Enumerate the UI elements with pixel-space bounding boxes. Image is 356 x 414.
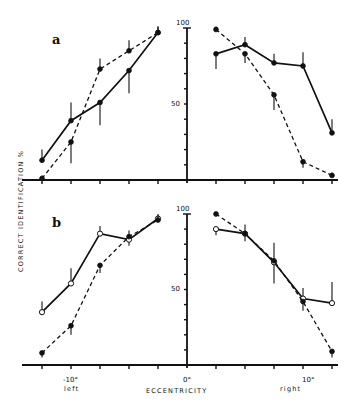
data-point-filled [301, 299, 306, 304]
data-point-filled [127, 68, 132, 73]
data-point-filled [243, 231, 248, 236]
data-point-filled [40, 158, 45, 163]
data-point-filled [214, 27, 219, 32]
y-tick-50-bottom: 50 [171, 285, 180, 293]
x-side-label-left: left [64, 385, 79, 393]
data-point-filled [214, 51, 219, 56]
x-tick-label-0: 0° [183, 376, 191, 384]
panel-label-b: b [52, 215, 61, 230]
panel-b-axes [22, 214, 338, 369]
data-point-filled [330, 173, 335, 178]
panel-a-axes [22, 28, 338, 184]
data-point-open [97, 231, 102, 236]
y-tick-100-bottom: 100 [176, 205, 189, 213]
data-point-filled [272, 92, 277, 97]
data-point-filled [98, 263, 103, 268]
series-line-solid-left [42, 33, 158, 161]
data-point-open [329, 300, 334, 305]
x-axis-label: ECCENTRICITY [146, 387, 207, 395]
data-point-filled [330, 349, 335, 354]
panel-label-a: a [52, 32, 61, 47]
data-point-filled [156, 30, 161, 35]
data-point-open [39, 310, 44, 315]
data-point-filled [272, 258, 277, 263]
data-point-filled [98, 100, 103, 105]
data-point-filled [40, 176, 45, 181]
x-tick-label-minus10: -10° [63, 376, 78, 384]
data-point-filled [98, 67, 103, 72]
data-point-filled [243, 42, 248, 47]
x-side-label-right: right [280, 385, 301, 393]
data-point-filled [156, 218, 161, 223]
y-tick-50-top: 50 [171, 100, 180, 108]
data-point-filled [243, 51, 248, 56]
series-line-dashed-left [42, 220, 158, 353]
data-point-filled [40, 351, 45, 356]
data-point-filled [69, 323, 74, 328]
data-point-filled [127, 234, 132, 239]
data-point-filled [272, 61, 277, 66]
data-point-filled [214, 212, 219, 217]
data-point-filled [301, 64, 306, 69]
y-axis-label: CORRECT IDENTIFICATION % [17, 150, 25, 272]
data-point-filled [69, 140, 74, 145]
data-point-open [213, 227, 218, 232]
x-tick-label-10: 10° [302, 376, 314, 384]
axes-layer [22, 28, 338, 369]
data-point-open [68, 281, 73, 286]
data-point-filled [69, 118, 74, 123]
data-point-filled [127, 48, 132, 53]
data-point-filled [330, 130, 335, 135]
data-point-filled [301, 159, 306, 164]
figure-canvas: a b 100 50 100 50 CORRECT IDENTIFICATION… [0, 0, 356, 414]
y-tick-100-top: 100 [176, 19, 189, 27]
